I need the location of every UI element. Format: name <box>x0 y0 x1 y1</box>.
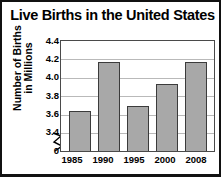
bar-1990 <box>98 62 120 151</box>
bar-1995 <box>127 106 149 151</box>
y-axis-label: Number of Births in Millions <box>12 13 34 123</box>
plot-area <box>60 40 215 152</box>
chart-figure: Live Births in the United States Number … <box>0 0 221 177</box>
y-tick-4-2: 4.2 <box>33 53 59 64</box>
y-tick-3-8: 3.8 <box>33 90 59 101</box>
x-tick-2008: 2008 <box>176 154 216 165</box>
bar-2000 <box>156 84 178 151</box>
y-tick-3-6: 3.6 <box>33 108 59 119</box>
bar-series <box>61 41 214 151</box>
y-axis-label-line2: in Millions <box>23 13 34 123</box>
chart-title: Live Births in the United States <box>2 7 221 23</box>
y-tick-4-4: 4.4 <box>33 35 59 46</box>
y-tick-4-0: 4.0 <box>33 71 59 82</box>
bar-2008 <box>185 62 207 151</box>
bar-1985 <box>69 111 91 151</box>
